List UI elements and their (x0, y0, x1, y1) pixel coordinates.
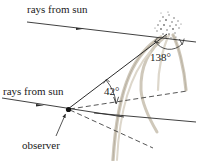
label-rays-from-sun-bottom: rays from sun (3, 86, 64, 97)
observer-dashed-lower (70, 110, 153, 148)
ground-line (94, 113, 196, 122)
top-sun-ray (27, 22, 196, 42)
observer-point-marker (66, 107, 71, 112)
label-rays-from-sun-top: rays from sun (27, 4, 88, 15)
observer-to-droplet-ray (68, 34, 167, 109)
label-observer: observer (22, 140, 60, 151)
observer-leader-arrow (56, 114, 66, 136)
label-angle-42: 42° (104, 86, 119, 97)
rainbow-diagram: rays from sun rays from sun observer 42°… (0, 0, 202, 161)
label-angle-138: 138° (150, 52, 171, 63)
diagram-canvas (0, 0, 202, 161)
